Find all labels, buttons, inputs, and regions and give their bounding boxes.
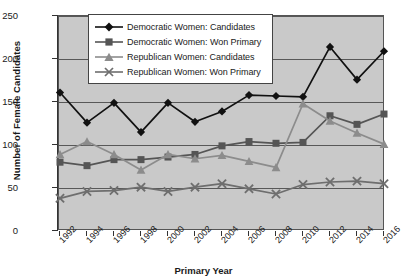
legend-symbol-diamond-icon: [94, 20, 124, 34]
legend-item: Republican Women: Won Primary: [94, 64, 267, 79]
legend-label: Democratic Women: Candidates: [124, 22, 255, 32]
data-point-square-marker: [381, 111, 388, 118]
data-point-triangle-marker: [380, 140, 389, 148]
data-point-square-marker: [354, 121, 361, 128]
data-point-square-marker: [138, 156, 145, 163]
data-point-triangle-marker: [299, 99, 308, 107]
x-axis-title: Primary Year: [0, 265, 407, 276]
legend: Democratic Women: Candidates Democratic …: [88, 14, 273, 84]
y-axis-tick-label: 100: [0, 139, 18, 150]
legend-label: Democratic Women: Won Primary: [124, 37, 261, 47]
chart-container: Number of Female Candidates 050100150200…: [0, 0, 407, 280]
legend-symbol-triangle-icon: [94, 50, 124, 64]
y-axis-tick-label: 150: [0, 96, 18, 107]
data-point-square-marker: [246, 138, 253, 145]
legend-symbol-x-icon: [94, 65, 124, 79]
series-group: [57, 111, 388, 170]
y-axis-tick-label: 250: [0, 10, 18, 21]
y-axis-tick-label: 0: [0, 225, 18, 236]
data-point-triangle-marker: [110, 150, 119, 158]
data-point-square-marker: [84, 162, 91, 169]
legend-item: Democratic Women: Candidates: [94, 19, 267, 34]
data-point-square-marker: [300, 139, 307, 146]
series-group: [56, 177, 388, 202]
y-axis-tick-mark: [52, 230, 58, 231]
data-point-triangle-marker: [353, 129, 362, 137]
data-point-triangle-marker: [83, 137, 92, 145]
y-axis-title: Number of Female Candidates: [11, 21, 22, 201]
legend-label: Republican Women: Candidates: [124, 52, 255, 62]
legend-label: Republican Women: Won Primary: [124, 67, 261, 77]
y-axis-tick-label: 200: [0, 53, 18, 64]
data-point-diamond-marker: [218, 107, 226, 115]
data-point-square-marker: [273, 140, 280, 147]
data-point-triangle-marker: [137, 166, 146, 174]
legend-symbol-square-icon: [94, 35, 124, 49]
data-point-square-marker: [57, 159, 64, 166]
data-point-square-marker: [219, 142, 226, 149]
legend-item: Republican Women: Candidates: [94, 49, 267, 64]
legend-item: Democratic Women: Won Primary: [94, 34, 267, 49]
data-point-diamond-marker: [272, 92, 280, 100]
y-axis-tick-label: 50: [0, 182, 18, 193]
data-point-diamond-marker: [245, 91, 253, 99]
